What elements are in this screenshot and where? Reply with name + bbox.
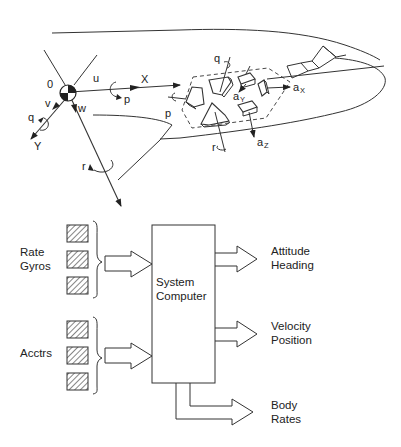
pitch-gyro-icon (209, 57, 233, 97)
gyro-input-arrow (105, 251, 152, 277)
acctrs-label: Acctrs (20, 347, 52, 359)
x-axis-arrow (70, 85, 180, 92)
r-yaw-rotation-icon (94, 160, 113, 172)
output-position-label: Position (271, 334, 312, 346)
sensor-r-label: r (212, 141, 216, 153)
output-body-label: Body (271, 399, 297, 411)
sensor-p-label: p (165, 107, 171, 119)
rate-gyro-3 (67, 277, 88, 294)
rate-gyros-label-line2: Gyros (20, 260, 51, 272)
accelerometer-2 (67, 347, 88, 364)
attitude-output-arrow (215, 246, 257, 272)
rate-gyro-1 (67, 225, 88, 242)
body-axes: 0 X u p v q Y w r (28, 50, 180, 206)
q-label: q (28, 111, 34, 123)
rate-gyros-label-line1: Rate (20, 246, 44, 258)
strapdown-ins-diagram: 0 X u p v q Y w r (0, 0, 401, 447)
u-label: u (93, 72, 99, 84)
ax-subscript: X (300, 86, 305, 95)
fuselage-nose-outline (160, 58, 385, 139)
v-label: v (45, 97, 51, 109)
sensor-q-label: q (214, 52, 220, 64)
z-accelerometer-icon (238, 101, 257, 137)
accel-input-arrow (105, 343, 152, 369)
az-subscript: Z (264, 141, 269, 150)
ax-label: a (293, 81, 300, 93)
body-rates-output-arrow (176, 383, 253, 425)
origin-label: 0 (47, 78, 53, 90)
r-label: r (82, 160, 86, 172)
rate-gyro-brace (93, 221, 102, 298)
w-label: w (77, 102, 86, 114)
accelerometer-1 (67, 321, 88, 338)
accelerometer-3 (67, 373, 88, 390)
accelerometer-group (67, 317, 102, 394)
x-axis-label: X (141, 73, 149, 85)
p-label: p (124, 93, 130, 105)
output-heading-label: Heading (271, 259, 314, 271)
output-attitude-label: Attitude (271, 245, 310, 257)
ay-label: a (233, 90, 240, 102)
ay-subscript: Y (240, 95, 245, 104)
az-label: a (257, 136, 264, 148)
output-velocity-label: Velocity (271, 320, 311, 332)
v-velocity-arrow-icon (52, 102, 60, 110)
sensor-cluster: p q r a X a Y a Z (165, 52, 305, 153)
block-diagram: Rate Gyros Acctrs System Computer Attitu… (20, 221, 314, 425)
accelerometer-brace (93, 317, 102, 394)
system-computer-label-line2: Computer (156, 290, 207, 302)
system-computer-block (152, 225, 215, 383)
velocity-output-arrow (215, 321, 257, 347)
center-of-gravity-icon (60, 85, 76, 101)
rate-gyro-group (67, 221, 102, 298)
x-accelerometer-icon (258, 80, 290, 96)
w-velocity-arrow-icon (71, 104, 77, 113)
y-axis-label: Y (34, 140, 42, 152)
rate-gyro-2 (67, 251, 88, 268)
output-rates-label: Rates (271, 413, 301, 425)
x-axis-reference-line (267, 66, 384, 79)
system-computer-label-line1: System (156, 276, 194, 288)
